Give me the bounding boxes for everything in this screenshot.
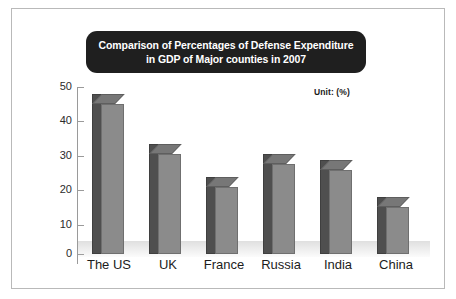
y-tick-0: 0 (32, 254, 84, 255)
x-axis-labels: The US UK France Russia India China (32, 257, 442, 277)
bar-front-face (386, 207, 409, 254)
bar-india[interactable] (320, 160, 353, 254)
y-tick-40: 40 (32, 121, 84, 122)
y-tick-label-10: 10 (42, 218, 72, 230)
plot-area: 50 40 30 20 10 0 (32, 79, 432, 279)
y-tick-label-20: 20 (42, 183, 72, 195)
bar-front-face (158, 154, 181, 254)
x-label-china: China (361, 257, 431, 272)
bar-front-face (101, 104, 124, 254)
y-tick-30: 30 (32, 156, 84, 157)
bar-france[interactable] (206, 177, 239, 254)
chart-title-plaque: Comparison of Percentages of Defense Exp… (86, 31, 366, 73)
bar-russia[interactable] (263, 154, 296, 254)
y-tick-20: 20 (32, 190, 84, 191)
bar-the-us[interactable] (92, 94, 125, 254)
chart-title-line-first: Comparison of Percentages of Defense Exp… (99, 38, 354, 52)
bar-front-face (272, 164, 295, 254)
bars-container (78, 79, 432, 254)
chart-figure-frame: Comparison of Percentages of Defense Exp… (11, 8, 445, 289)
y-tick-10: 10 (32, 225, 84, 226)
bar-front-face (329, 170, 352, 254)
chart-title-line-second: in GDP of Major counties in 2007 (146, 52, 306, 66)
bar-china[interactable] (377, 197, 410, 254)
bar-front-face (215, 187, 238, 254)
y-tick-label-30: 30 (42, 149, 72, 161)
y-tick-50: 50 (32, 87, 84, 88)
bar-uk[interactable] (149, 144, 182, 254)
x-label-the-us: The US (74, 257, 144, 272)
y-tick-label-40: 40 (42, 114, 72, 126)
y-tick-label-50: 50 (42, 80, 72, 92)
